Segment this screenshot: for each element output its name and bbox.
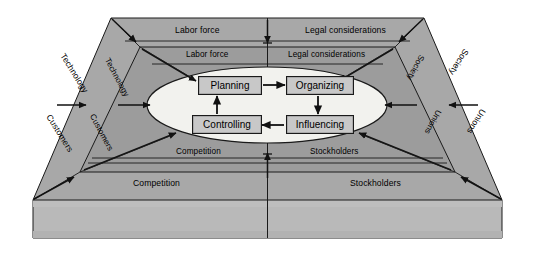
- diagram-svg: [0, 0, 535, 253]
- management-environment-figure: Labor force Legal considerations Competi…: [0, 0, 535, 253]
- function-box-influencing[interactable]: Influencing: [286, 115, 354, 134]
- diagram-stage: Labor force Legal considerations Competi…: [0, 0, 535, 253]
- function-box-planning[interactable]: Planning: [198, 76, 262, 95]
- function-box-controlling[interactable]: Controlling: [192, 115, 262, 134]
- function-box-organizing[interactable]: Organizing: [286, 76, 354, 95]
